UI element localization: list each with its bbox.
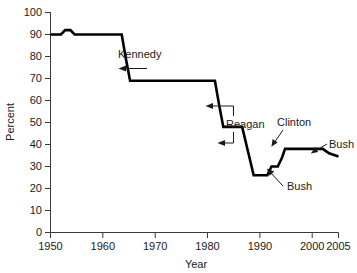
x-axis: 1950 1960 1970 1980 1990 2000 2005 (38, 233, 350, 253)
annotation-reagan: Reagan (206, 103, 265, 146)
y-tick-label-50: 50 (30, 116, 42, 128)
annotation-label-clinton: Clinton (277, 116, 311, 128)
x-tick-label-2000: 2000 (300, 240, 324, 252)
x-tick-label-1960: 1960 (91, 240, 115, 252)
annotation-label-kennedy: Kennedy (118, 48, 162, 60)
y-tick-label-10: 10 (30, 204, 42, 216)
data-series-line (51, 30, 339, 175)
y-tick-label-100: 100 (24, 6, 42, 18)
x-tick-label-1980: 1980 (195, 240, 219, 252)
reagan-arrow-upper-icon (206, 103, 214, 109)
x-tick-label-2005: 2005 (326, 240, 350, 252)
y-tick-label-40: 40 (30, 138, 42, 150)
line-chart: 100 90 80 70 60 50 40 30 20 10 0 1950 19… (0, 0, 357, 273)
annotation-bush-right: Bush (311, 138, 354, 153)
y-tick-label-80: 80 (30, 50, 42, 62)
x-tick-label-1950: 1950 (38, 240, 62, 252)
x-tick-label-1990: 1990 (248, 240, 272, 252)
annotation-label-reagan: Reagan (226, 118, 265, 130)
y-tick-label-30: 30 (30, 160, 42, 172)
annotation-label-bush-right: Bush (329, 138, 354, 150)
annotation-clinton: Clinton (271, 116, 311, 147)
clinton-arrow-icon (271, 139, 277, 147)
y-tick-label-70: 70 (30, 72, 42, 84)
reagan-arrow-lower-icon (218, 140, 226, 146)
y-tick-label-20: 20 (30, 182, 42, 194)
y-axis-title: Percent (4, 103, 16, 141)
bush-lower-leader-line (270, 172, 283, 186)
kennedy-arrow-icon (119, 66, 127, 72)
y-tick-label-0: 0 (36, 226, 42, 238)
annotation-bush-lower: Bush (267, 169, 312, 192)
annotation-label-bush-lower: Bush (287, 180, 312, 192)
annotation-kennedy: Kennedy (118, 48, 162, 72)
y-axis: 100 90 80 70 60 50 40 30 20 10 0 (24, 6, 51, 238)
chart-container: 100 90 80 70 60 50 40 30 20 10 0 1950 19… (0, 0, 357, 273)
x-tick-label-1970: 1970 (143, 240, 167, 252)
y-tick-label-60: 60 (30, 94, 42, 106)
y-tick-label-90: 90 (30, 28, 42, 40)
x-axis-title: Year (185, 258, 208, 270)
